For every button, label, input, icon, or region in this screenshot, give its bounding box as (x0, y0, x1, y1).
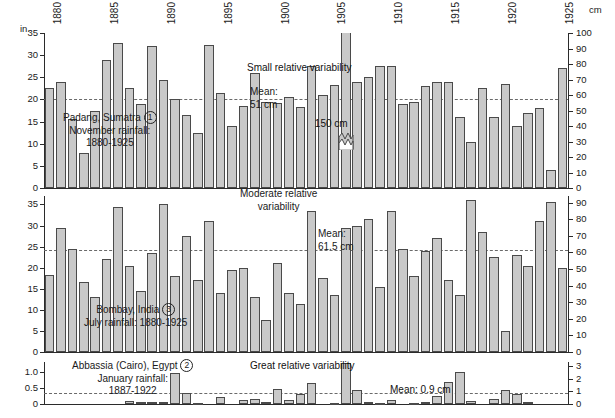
bar (489, 399, 499, 404)
padang-title-block-line-1: Padang, Sumatra 1 (63, 111, 157, 125)
abbassia-variability-note: Great relative variability (250, 360, 354, 373)
padang-title-block: Padang, Sumatra 1November rainfall:1880-… (63, 111, 157, 150)
bar (273, 389, 283, 404)
padang-mean-block: Mean:51 cm (250, 86, 278, 111)
bar (455, 372, 465, 404)
bombay-title-block-line-1: Bombay, India 3 (84, 303, 187, 317)
bombay-mean-block-line-1: Mean: (318, 228, 354, 241)
tick-right-abbassia-0 (569, 404, 573, 405)
axis-right-abbassia (568, 362, 569, 404)
tick-left-abbassia-0.5 (40, 388, 44, 389)
abbassia-title-block-marker: 2 (180, 359, 193, 372)
ticklabel-right-abbassia-1: 1 (576, 386, 581, 396)
abbassia-title-block: Abbassia (Cairo), Egypt 2January rainfal… (72, 359, 193, 398)
bar (147, 402, 157, 404)
rainfall-variability-figure: in.cm18801885189018951900190519101915192… (0, 0, 615, 418)
bar (409, 403, 419, 405)
bar (216, 397, 226, 404)
tick-right-abbassia-1 (569, 391, 573, 392)
bar (193, 403, 203, 405)
bombay-title-block: Bombay, India 3July rainfall: 1880-1925 (84, 303, 187, 329)
bar (387, 400, 397, 404)
padang-title-block-marker: 1 (144, 111, 157, 124)
axis-baseline-abbassia (44, 404, 570, 405)
ticklabel-right-abbassia-3: 3 (576, 361, 581, 371)
abbassia-title-block-line-1: Abbassia (Cairo), Egypt 2 (72, 359, 193, 373)
ticklabel-left-abbassia-0.5: 0.5 (2, 383, 38, 393)
bar (523, 402, 533, 404)
padang-mean-block-line-1: Mean: (250, 86, 278, 99)
bar (250, 399, 260, 404)
bar (364, 402, 374, 404)
bar (296, 394, 306, 404)
padang-title-block-line-2: November rainfall: (63, 125, 157, 138)
bar (466, 401, 476, 404)
bombay-variability-note-line-2: variability (240, 201, 317, 214)
ticklabel-right-abbassia-0: 0 (576, 399, 581, 409)
bombay-mean-block: Mean:61.5 cm (318, 228, 354, 253)
bar (125, 401, 135, 404)
bombay-title-block-line-2: July rainfall: 1880-1925 (84, 317, 187, 330)
bar (501, 390, 511, 404)
abbassia-title-block-line-2: January rainfall: (72, 373, 193, 386)
broken-bar-value-label: 150 cm (315, 118, 348, 131)
bar (330, 403, 340, 405)
tick-right-abbassia-2 (569, 379, 573, 380)
tick-left-abbassia-1.0 (40, 372, 44, 373)
bar (307, 383, 317, 404)
axis-left-abbassia (44, 362, 45, 404)
bombay-variability-note-line-1: Moderate relative (240, 188, 317, 201)
bar (261, 402, 271, 404)
bar (352, 390, 362, 404)
ticklabel-left-abbassia-0: 0 (2, 399, 38, 409)
bar (159, 402, 169, 404)
bombay-title-block-marker: 3 (162, 303, 175, 316)
abbassia-title-block-line-3: 1887-1922 (72, 385, 193, 398)
padang-variability-note: Small relative variability (247, 62, 351, 75)
tick-left-abbassia-0 (40, 404, 44, 405)
ticklabel-right-abbassia-2: 2 (576, 374, 581, 384)
bar (421, 402, 431, 404)
bombay-mean-block-line-2: 61.5 cm (318, 241, 354, 254)
abbassia-mean-label: Mean: 0.9 cm (390, 384, 451, 397)
ticklabel-left-abbassia-1.0: 1.0 (2, 367, 38, 377)
padang-title-block-line-3: 1880-1925 (63, 137, 157, 150)
bombay-variability-note: Moderate relativevariability (240, 188, 317, 213)
bar (239, 400, 249, 404)
bar (432, 396, 442, 404)
bar (375, 403, 385, 405)
padang-mean-block-line-2: 51 cm (250, 99, 278, 112)
bar (512, 394, 522, 404)
bar (284, 400, 294, 404)
axis-break-icon (338, 131, 354, 151)
tick-right-abbassia-3 (569, 366, 573, 367)
bar (136, 402, 146, 404)
